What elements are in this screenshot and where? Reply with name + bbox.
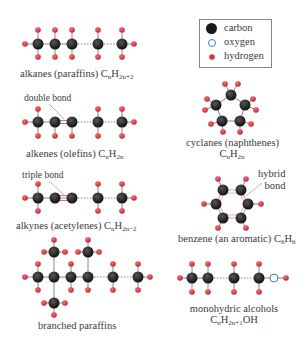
alkynes-label: alkynes (acetylenes) CnH2n−2 [16,220,137,233]
oxygen-atom-icon [270,274,278,282]
alkenes-label: alkenes (olefins) CnH2n [26,148,123,161]
legend-item-hydrogen: hydrogen [200,50,271,64]
legend-item-carbon: carbon [200,22,271,36]
double-bond-annotation: double bond [24,93,71,103]
triple-bond-annotation: triple bond [22,170,63,180]
alcohols-label: monohydric alcohols CnH2n+1OH [186,303,282,327]
hydrocarbon-diagram: carbon oxygen hydrogen alkanes (paraffin… [0,0,304,344]
benzene-label: benzene (an aromatic) C6H6 [178,233,296,246]
carbon-atom-icon [206,23,217,34]
hybrid-bond-annotation: hybrid bond [258,168,285,192]
legend-label: oxygen [224,36,255,47]
branched-paraffins-label: branched paraffins [38,320,116,331]
cyclanes-label: cyclanes (naphthenes) CnH2n [186,137,278,161]
hydrogen-atom-icon [207,52,217,62]
legend-label: hydrogen [224,50,264,61]
legend: carbon oxygen hydrogen [199,19,272,68]
legend-item-oxygen: oxygen [200,36,271,50]
alkanes-label: alkanes (paraffins) CnH2n+2 [20,68,133,81]
legend-label: carbon [224,22,253,33]
oxygen-atom-icon [207,38,217,48]
